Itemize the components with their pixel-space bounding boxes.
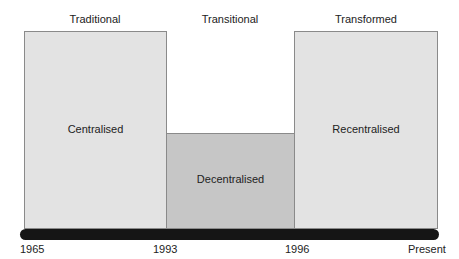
year-present: Present: [408, 243, 446, 255]
timeline-bar: [20, 229, 439, 240]
phase-label-transitional: Transitional: [160, 13, 300, 25]
phase-label-transformed: Transformed: [296, 13, 436, 25]
recentralised-box: Recentralised: [294, 31, 438, 229]
recentralised-label: Recentralised: [295, 123, 437, 135]
phase-label-traditional: Traditional: [25, 13, 165, 25]
year-1993: 1993: [153, 243, 177, 255]
year-1996: 1996: [285, 243, 309, 255]
decentralised-box: Decentralised: [166, 133, 295, 229]
centralised-label: Centralised: [25, 123, 166, 135]
year-1965: 1965: [20, 243, 44, 255]
centralised-box: Centralised: [24, 31, 167, 229]
decentralised-label: Decentralised: [167, 173, 294, 185]
